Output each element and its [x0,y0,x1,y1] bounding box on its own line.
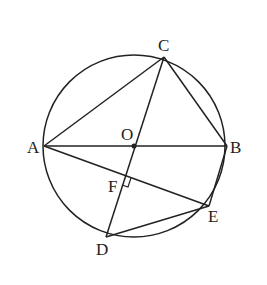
segment-bc [164,57,227,146]
geometry-diagram: C A B O F D E [0,0,267,285]
label-o: O [121,125,133,144]
segment-ae [44,146,209,206]
label-e: E [208,207,218,226]
segment-be [209,146,227,206]
segment-de [106,206,209,237]
label-a: A [27,138,40,157]
center-point-o [132,144,137,149]
label-d: D [96,240,108,259]
label-f: F [108,177,117,196]
segment-ac [44,57,164,146]
diagram-canvas: C A B O F D E [0,0,267,285]
label-c: C [158,36,169,55]
label-b: B [230,138,241,157]
